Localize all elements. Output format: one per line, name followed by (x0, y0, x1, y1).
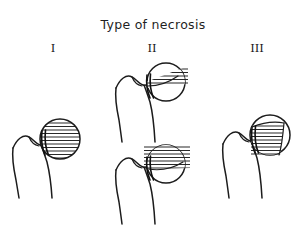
femur-diagram-type-2-lower (108, 140, 203, 232)
figure-title: Type of necrosis (0, 17, 306, 32)
femur-diagram-type-3 (218, 108, 306, 203)
column-label-type-3: III (237, 41, 277, 55)
column-label-type-1: I (33, 41, 73, 55)
femur-diagram-type-2-upper (108, 58, 203, 153)
figure-root: Type of necrosis I II III (0, 0, 306, 232)
column-label-type-2: II (132, 41, 172, 55)
femur-diagram-type-1 (8, 112, 98, 202)
